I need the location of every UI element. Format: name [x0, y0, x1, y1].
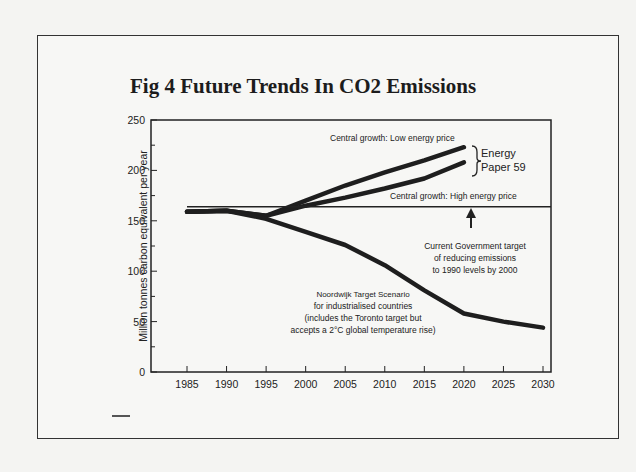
- x-tick-label: 2015: [413, 378, 437, 390]
- label-energy-paper-2: Paper 59: [481, 161, 526, 173]
- label-high-price: Central growth: High energy price: [390, 191, 517, 201]
- target-arrow-icon: [466, 208, 476, 218]
- x-tick-label: 2020: [452, 378, 476, 390]
- x-tick-label: 2010: [373, 378, 397, 390]
- label-energy-paper-1: Energy: [481, 147, 516, 159]
- label-scenario-3: (includes the Toronto target but: [304, 313, 422, 323]
- label-scenario-2: for industrialised countries: [314, 301, 413, 311]
- y-tick-label: 250: [127, 114, 145, 126]
- y-tick-label: 0: [139, 366, 145, 378]
- y-axis-label: Million tonnes carbon equivalent per yea…: [137, 150, 149, 342]
- x-tick-label: 2025: [492, 378, 516, 390]
- series-line-1: [187, 162, 464, 215]
- label-gov-target-2: of reducing emissions: [434, 253, 516, 263]
- label-gov-target-3: to 1990 levels by 2000: [432, 265, 517, 275]
- label-low-price: Central growth: Low energy price: [330, 133, 455, 143]
- chart-plot: 050100150200250 198519901995200020052010…: [0, 0, 636, 472]
- x-tick-label: 1985: [175, 378, 199, 390]
- series-line-0: [187, 147, 464, 216]
- label-gov-target-1: Current Government target: [424, 241, 526, 251]
- label-scenario-1: Noordwijk Target Scenario: [316, 290, 410, 299]
- x-axis: 1985199019952000200520102015202020252030: [175, 366, 555, 390]
- brace-icon: [472, 146, 481, 176]
- x-tick-label: 2005: [334, 378, 358, 390]
- x-tick-label: 2000: [294, 378, 318, 390]
- x-tick-label: 1995: [254, 378, 278, 390]
- label-scenario-4: accepts a 2°C global temperature rise): [290, 325, 435, 335]
- x-tick-label: 2030: [531, 378, 555, 390]
- x-tick-label: 1990: [215, 378, 239, 390]
